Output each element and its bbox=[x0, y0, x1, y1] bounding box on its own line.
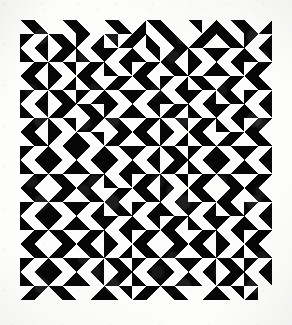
truchet-tile bbox=[230, 160, 244, 174]
truchet-tile bbox=[34, 90, 48, 104]
truchet-tile bbox=[188, 188, 202, 202]
truchet-tile bbox=[62, 20, 76, 34]
truchet-tile bbox=[244, 202, 258, 216]
truchet-tile bbox=[202, 286, 216, 300]
truchet-tile bbox=[174, 48, 188, 62]
truchet-tile bbox=[244, 230, 258, 244]
truchet-tile bbox=[230, 174, 244, 188]
truchet-tile bbox=[76, 104, 90, 118]
truchet-tile bbox=[174, 118, 188, 132]
truchet-tile bbox=[20, 104, 34, 118]
truchet-tile bbox=[48, 286, 62, 300]
truchet-tile bbox=[62, 272, 76, 286]
truchet-tile bbox=[160, 202, 174, 216]
truchet-tile bbox=[146, 230, 160, 244]
truchet-tile bbox=[258, 104, 272, 118]
truchet-tile bbox=[188, 244, 202, 258]
truchet-tile bbox=[48, 132, 62, 146]
truchet-tile bbox=[20, 20, 34, 34]
truchet-tile bbox=[188, 160, 202, 174]
truchet-tile bbox=[34, 230, 48, 244]
truchet-tile bbox=[146, 118, 160, 132]
truchet-tile bbox=[244, 258, 258, 272]
truchet-tile bbox=[146, 146, 160, 160]
truchet-tile bbox=[104, 174, 118, 188]
truchet-tile bbox=[34, 34, 48, 48]
truchet-tile bbox=[76, 118, 90, 132]
truchet-tile bbox=[244, 34, 258, 48]
truchet-tile bbox=[118, 188, 132, 202]
truchet-tile bbox=[230, 90, 244, 104]
truchet-tile bbox=[48, 230, 62, 244]
truchet-tile bbox=[174, 230, 188, 244]
truchet-tile bbox=[160, 160, 174, 174]
truchet-tile bbox=[230, 48, 244, 62]
truchet-tile bbox=[62, 216, 76, 230]
truchet-tile bbox=[258, 48, 272, 62]
truchet-tile bbox=[188, 76, 202, 90]
truchet-tile bbox=[90, 160, 104, 174]
truchet-tile bbox=[62, 62, 76, 76]
truchet-tile bbox=[34, 146, 48, 160]
truchet-tile bbox=[118, 216, 132, 230]
truchet-tile bbox=[258, 20, 272, 34]
truchet-tile bbox=[160, 90, 174, 104]
truchet-tile bbox=[216, 272, 230, 286]
truchet-tile bbox=[146, 188, 160, 202]
truchet-tile bbox=[104, 216, 118, 230]
truchet-tile bbox=[174, 34, 188, 48]
truchet-tile bbox=[258, 244, 272, 258]
truchet-tile bbox=[216, 76, 230, 90]
truchet-tile bbox=[258, 160, 272, 174]
truchet-tile bbox=[104, 48, 118, 62]
truchet-tile bbox=[202, 216, 216, 230]
truchet-tile bbox=[104, 132, 118, 146]
truchet-tile bbox=[216, 104, 230, 118]
truchet-tile bbox=[132, 244, 146, 258]
truchet-tile bbox=[90, 174, 104, 188]
truchet-tile bbox=[174, 244, 188, 258]
truchet-tile bbox=[76, 132, 90, 146]
truchet-tile bbox=[90, 188, 104, 202]
truchet-tile bbox=[76, 216, 90, 230]
artwork-canvas bbox=[0, 0, 292, 325]
truchet-tile bbox=[132, 258, 146, 272]
truchet-tile bbox=[146, 20, 160, 34]
truchet-tile bbox=[230, 230, 244, 244]
truchet-tile bbox=[76, 244, 90, 258]
truchet-tile bbox=[258, 230, 272, 244]
truchet-tile bbox=[160, 258, 174, 272]
truchet-tile bbox=[20, 244, 34, 258]
truchet-tile bbox=[174, 188, 188, 202]
truchet-tile bbox=[188, 20, 202, 34]
truchet-tile bbox=[188, 104, 202, 118]
truchet-tile bbox=[160, 76, 174, 90]
truchet-tile bbox=[216, 174, 230, 188]
truchet-tile bbox=[216, 258, 230, 272]
truchet-tile bbox=[216, 188, 230, 202]
truchet-tile bbox=[188, 118, 202, 132]
truchet-tile bbox=[104, 62, 118, 76]
truchet-tile bbox=[104, 20, 118, 34]
truchet-tile bbox=[34, 132, 48, 146]
truchet-tile bbox=[160, 104, 174, 118]
truchet-tile bbox=[20, 132, 34, 146]
truchet-tile bbox=[132, 48, 146, 62]
truchet-tile bbox=[216, 34, 230, 48]
truchet-tile bbox=[90, 244, 104, 258]
truchet-tile bbox=[76, 188, 90, 202]
truchet-tile bbox=[118, 174, 132, 188]
truchet-tile bbox=[230, 104, 244, 118]
truchet-tile bbox=[20, 48, 34, 62]
truchet-pattern bbox=[20, 20, 272, 300]
truchet-tile bbox=[244, 62, 258, 76]
truchet-tile bbox=[48, 76, 62, 90]
truchet-tile bbox=[20, 202, 34, 216]
truchet-tile bbox=[118, 62, 132, 76]
truchet-tile bbox=[20, 34, 34, 48]
truchet-tile bbox=[160, 230, 174, 244]
truchet-tile bbox=[188, 34, 202, 48]
truchet-tile bbox=[132, 286, 146, 300]
truchet-tile bbox=[174, 286, 188, 300]
truchet-tile bbox=[230, 286, 244, 300]
